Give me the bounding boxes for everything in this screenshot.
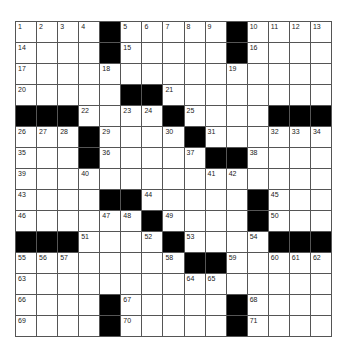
grid-cell[interactable]: 37: [185, 148, 205, 168]
grid-cell[interactable]: [100, 106, 120, 126]
grid-cell[interactable]: 33: [290, 127, 310, 147]
grid-cell[interactable]: [100, 274, 120, 294]
grid-cell[interactable]: [206, 64, 226, 84]
grid-cell[interactable]: [227, 211, 247, 231]
grid-cell[interactable]: [163, 316, 183, 336]
grid-cell[interactable]: [248, 169, 268, 189]
grid-cell[interactable]: [185, 316, 205, 336]
grid-cell[interactable]: [142, 295, 162, 315]
grid-cell[interactable]: 19: [227, 64, 247, 84]
grid-cell[interactable]: [311, 169, 331, 189]
grid-cell[interactable]: [269, 316, 289, 336]
grid-cell[interactable]: [269, 43, 289, 63]
grid-cell[interactable]: [206, 316, 226, 336]
grid-cell[interactable]: 39: [16, 169, 36, 189]
grid-cell[interactable]: [79, 316, 99, 336]
grid-cell[interactable]: [142, 274, 162, 294]
grid-cell[interactable]: 38: [248, 148, 268, 168]
grid-cell[interactable]: [79, 43, 99, 63]
grid-cell[interactable]: [290, 85, 310, 105]
grid-cell[interactable]: [290, 190, 310, 210]
grid-cell[interactable]: [142, 253, 162, 273]
grid-cell[interactable]: [227, 106, 247, 126]
grid-cell[interactable]: 32: [269, 127, 289, 147]
grid-cell[interactable]: [163, 64, 183, 84]
grid-cell[interactable]: 44: [142, 190, 162, 210]
grid-cell[interactable]: 24: [142, 106, 162, 126]
grid-cell[interactable]: [248, 85, 268, 105]
grid-cell[interactable]: [142, 43, 162, 63]
grid-cell[interactable]: 49: [163, 211, 183, 231]
grid-cell[interactable]: 41: [206, 169, 226, 189]
grid-cell[interactable]: [206, 190, 226, 210]
grid-cell[interactable]: 3: [58, 22, 78, 42]
grid-cell[interactable]: [58, 295, 78, 315]
grid-cell[interactable]: [185, 211, 205, 231]
grid-cell[interactable]: [290, 169, 310, 189]
grid-cell[interactable]: 27: [37, 127, 57, 147]
grid-cell[interactable]: 36: [100, 148, 120, 168]
grid-cell[interactable]: [100, 253, 120, 273]
grid-cell[interactable]: 59: [227, 253, 247, 273]
grid-cell[interactable]: [163, 43, 183, 63]
grid-cell[interactable]: 22: [79, 106, 99, 126]
grid-cell[interactable]: [290, 43, 310, 63]
grid-cell[interactable]: [311, 295, 331, 315]
grid-cell[interactable]: [163, 148, 183, 168]
grid-cell[interactable]: 66: [16, 295, 36, 315]
grid-cell[interactable]: [58, 169, 78, 189]
grid-cell[interactable]: [79, 295, 99, 315]
grid-cell[interactable]: 29: [100, 127, 120, 147]
grid-cell[interactable]: [290, 274, 310, 294]
grid-cell[interactable]: 42: [227, 169, 247, 189]
grid-cell[interactable]: [185, 190, 205, 210]
grid-cell[interactable]: 45: [269, 190, 289, 210]
grid-cell[interactable]: 31: [206, 127, 226, 147]
grid-cell[interactable]: [58, 316, 78, 336]
grid-cell[interactable]: 62: [311, 253, 331, 273]
grid-cell[interactable]: [206, 211, 226, 231]
grid-cell[interactable]: 1: [16, 22, 36, 42]
grid-cell[interactable]: [142, 148, 162, 168]
grid-cell[interactable]: 65: [206, 274, 226, 294]
grid-cell[interactable]: [163, 190, 183, 210]
grid-cell[interactable]: [37, 169, 57, 189]
grid-cell[interactable]: 12: [290, 22, 310, 42]
grid-cell[interactable]: [79, 85, 99, 105]
grid-cell[interactable]: 10: [248, 22, 268, 42]
grid-cell[interactable]: [163, 295, 183, 315]
grid-cell[interactable]: 5: [121, 22, 141, 42]
grid-cell[interactable]: [185, 169, 205, 189]
grid-cell[interactable]: [58, 274, 78, 294]
grid-cell[interactable]: 60: [269, 253, 289, 273]
grid-cell[interactable]: 14: [16, 43, 36, 63]
grid-cell[interactable]: [269, 295, 289, 315]
grid-cell[interactable]: [185, 43, 205, 63]
grid-cell[interactable]: [37, 295, 57, 315]
grid-cell[interactable]: [311, 64, 331, 84]
grid-cell[interactable]: [206, 85, 226, 105]
grid-cell[interactable]: [37, 85, 57, 105]
grid-cell[interactable]: 43: [16, 190, 36, 210]
grid-cell[interactable]: [227, 85, 247, 105]
grid-cell[interactable]: 71: [248, 316, 268, 336]
grid-cell[interactable]: [79, 253, 99, 273]
grid-cell[interactable]: [100, 85, 120, 105]
grid-cell[interactable]: [248, 106, 268, 126]
grid-cell[interactable]: [37, 211, 57, 231]
grid-cell[interactable]: [311, 211, 331, 231]
grid-cell[interactable]: 20: [16, 85, 36, 105]
grid-cell[interactable]: [311, 148, 331, 168]
grid-cell[interactable]: [248, 64, 268, 84]
grid-cell[interactable]: [248, 127, 268, 147]
grid-cell[interactable]: [121, 148, 141, 168]
grid-cell[interactable]: [206, 232, 226, 252]
grid-cell[interactable]: [121, 232, 141, 252]
grid-cell[interactable]: [311, 274, 331, 294]
grid-cell[interactable]: 15: [121, 43, 141, 63]
grid-cell[interactable]: [290, 211, 310, 231]
grid-cell[interactable]: 55: [16, 253, 36, 273]
grid-cell[interactable]: [121, 169, 141, 189]
grid-cell[interactable]: 47: [100, 211, 120, 231]
grid-cell[interactable]: 9: [206, 22, 226, 42]
